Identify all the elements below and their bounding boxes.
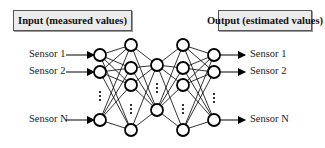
ellipsis-dot xyxy=(182,112,184,114)
ellipsis-dot xyxy=(99,95,101,97)
ellipsis-dot xyxy=(156,87,158,89)
neural-network-diagram xyxy=(0,0,325,148)
ellipsis-dot xyxy=(130,112,132,114)
neuron-node-output xyxy=(208,66,220,78)
neuron-node-hidden-1 xyxy=(125,62,137,74)
ellipsis-dot xyxy=(130,108,132,110)
neuron-node-hidden-1 xyxy=(125,79,137,91)
neuron-node-hidden-1 xyxy=(125,124,137,136)
neuron-node-hidden-3 xyxy=(177,62,189,74)
neuron-node-hidden-2 xyxy=(151,59,163,71)
ellipsis-dot xyxy=(182,104,184,106)
ellipsis-dot xyxy=(130,104,132,106)
ellipsis-dot xyxy=(156,83,158,85)
neuron-node-output xyxy=(208,114,220,126)
ellipsis-dot xyxy=(213,93,215,95)
ellipsis-dot xyxy=(182,108,184,110)
ellipsis-dot xyxy=(213,101,215,103)
ellipsis-dot xyxy=(156,91,158,93)
neuron-node-hidden-3 xyxy=(177,79,189,91)
neuron-node-hidden-1 xyxy=(125,39,137,51)
ellipsis-dot xyxy=(213,97,215,99)
neuron-node-input xyxy=(94,49,106,61)
neuron-node-hidden-3 xyxy=(177,39,189,51)
neuron-node-output xyxy=(208,49,220,61)
ellipsis-dot xyxy=(99,99,101,101)
connection-line xyxy=(100,85,131,120)
connection-line xyxy=(183,85,214,120)
neuron-node-hidden-3 xyxy=(177,124,189,136)
neuron-node-hidden-2 xyxy=(151,104,163,116)
neuron-node-input xyxy=(94,66,106,78)
neuron-node-input xyxy=(94,114,106,126)
ellipsis-dot xyxy=(99,91,101,93)
